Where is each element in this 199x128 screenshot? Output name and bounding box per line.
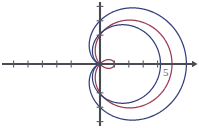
tick-label-5: 5: [163, 66, 169, 78]
plot-canvas: 5: [0, 0, 199, 128]
axis-tick-labels: 5: [163, 66, 169, 78]
polar-plot-figure: 5: [0, 0, 199, 128]
